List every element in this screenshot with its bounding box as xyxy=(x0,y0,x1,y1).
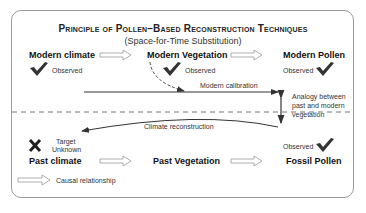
diagram-graphics xyxy=(0,0,366,213)
checkmark-icon xyxy=(30,62,334,152)
x-icon xyxy=(30,140,40,151)
hollow-arrow-icon xyxy=(18,50,262,185)
